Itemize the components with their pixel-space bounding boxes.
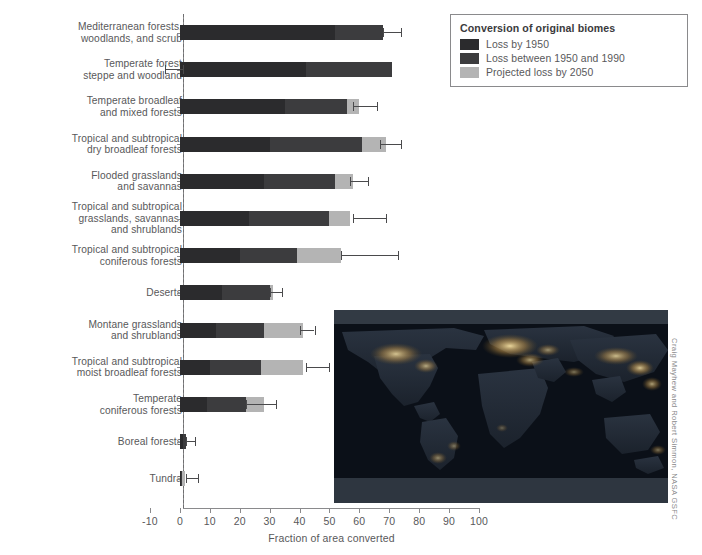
error-bar-cap <box>398 251 399 260</box>
legend-label-projected-2050: Projected loss by 2050 <box>486 67 593 78</box>
bar-segment <box>180 360 210 375</box>
chart-legend: Conversion of original biomes Loss by 19… <box>450 14 688 87</box>
stacked-bar <box>0 99 702 114</box>
x-tick <box>389 508 390 513</box>
error-bar-cap <box>380 140 381 149</box>
error-bar <box>306 367 330 368</box>
bar-segment <box>297 248 342 263</box>
error-bar-cap <box>270 288 271 297</box>
image-credit: Craig Mayhew and Robert Simmon, NASA GSF… <box>670 338 679 520</box>
bar-segment <box>180 248 240 263</box>
bar-segment <box>222 285 270 300</box>
error-bar <box>246 404 276 405</box>
stacked-bar <box>0 211 702 226</box>
error-bar-cap <box>350 177 351 186</box>
world-map-graphic <box>334 310 668 503</box>
error-bar-cap <box>383 28 384 37</box>
error-bar-cap <box>186 437 187 446</box>
x-tick-label: 100 <box>459 515 499 527</box>
x-tick <box>270 508 271 513</box>
error-bar-cap <box>401 28 402 37</box>
legend-swatch-loss-1950-1990 <box>460 53 479 64</box>
chart-row: Tropical and subtropicalgrasslands, sava… <box>0 211 702 226</box>
error-bar-cap <box>165 65 166 74</box>
bar-segment <box>180 62 306 77</box>
chart-row: Tropical and subtropicaldry broadleaf fo… <box>0 137 702 152</box>
error-bar-cap <box>341 251 342 260</box>
legend-item-projected-2050: Projected loss by 2050 <box>460 67 678 78</box>
error-bar <box>353 218 386 219</box>
error-bar <box>165 69 183 70</box>
error-bar <box>186 441 195 442</box>
bar-segment <box>306 62 393 77</box>
x-tick <box>180 508 181 513</box>
x-tick <box>329 508 330 513</box>
error-bar <box>350 181 368 182</box>
legend-swatch-projected-2050 <box>460 67 479 78</box>
legend-swatch-loss-1950 <box>460 39 479 50</box>
legend-label-loss-1950: Loss by 1950 <box>486 39 549 50</box>
error-bar-cap <box>183 65 184 74</box>
x-tick <box>479 508 480 513</box>
error-bar <box>353 106 377 107</box>
bar-segment <box>216 323 264 338</box>
bar-segment <box>182 471 185 486</box>
error-bar-cap <box>386 214 387 223</box>
error-bar-cap <box>198 474 199 483</box>
error-bar-cap <box>315 326 316 335</box>
x-axis-line <box>183 508 480 509</box>
bar-segment <box>180 323 216 338</box>
bar-segment <box>264 323 303 338</box>
category-label-line: and shrublands <box>0 224 182 236</box>
x-tick <box>240 508 241 513</box>
bar-segment <box>329 211 350 226</box>
earth-at-night-inset-map <box>334 310 668 503</box>
bar-segment <box>180 137 270 152</box>
error-bar <box>383 32 401 33</box>
x-axis-title: Fraction of area converted <box>183 532 480 544</box>
stacked-bar <box>0 285 702 300</box>
error-bar-cap <box>282 288 283 297</box>
chart-row: Deserts <box>0 285 702 300</box>
error-bar <box>300 330 315 331</box>
x-tick <box>210 508 211 513</box>
legend-item-loss-1950-1990: Loss between 1950 and 1990 <box>460 53 678 64</box>
x-tick <box>419 508 420 513</box>
error-bar <box>270 292 282 293</box>
chart-row: Temperate broadleafand mixed forests <box>0 99 702 114</box>
error-bar-cap <box>246 400 247 409</box>
error-bar <box>186 478 198 479</box>
bar-segment <box>210 360 261 375</box>
chart-row: Flooded grasslandsand savannas <box>0 174 702 189</box>
stacked-bar <box>0 137 702 152</box>
error-bar <box>341 255 398 256</box>
error-bar <box>380 144 401 145</box>
bar-segment <box>180 285 222 300</box>
bar-segment <box>285 99 348 114</box>
bar-segment <box>261 360 303 375</box>
x-tick <box>359 508 360 513</box>
error-bar-cap <box>195 437 196 446</box>
bar-segment <box>180 99 285 114</box>
error-bar-cap <box>186 474 187 483</box>
legend-item-loss-1950: Loss by 1950 <box>460 39 678 50</box>
bar-segment <box>249 211 330 226</box>
bar-segment <box>335 25 383 40</box>
error-bar-cap <box>353 214 354 223</box>
legend-label-loss-1950-1990: Loss between 1950 and 1990 <box>486 53 625 64</box>
bar-segment <box>180 397 207 412</box>
bar-segment <box>270 137 363 152</box>
bar-segment <box>264 174 336 189</box>
chart-row: Tropical and subtropicalconiferous fores… <box>0 248 702 263</box>
error-bar-cap <box>300 326 301 335</box>
bar-segment <box>180 211 249 226</box>
biome-conversion-chart: -100102030405060708090100 Fraction of ar… <box>0 0 702 555</box>
bar-segment <box>180 174 264 189</box>
error-bar-cap <box>306 363 307 372</box>
error-bar-cap <box>401 140 402 149</box>
bar-segment <box>180 25 336 40</box>
error-bar-cap <box>377 102 378 111</box>
x-tick <box>300 508 301 513</box>
error-bar-cap <box>329 363 330 372</box>
error-bar-cap <box>276 400 277 409</box>
